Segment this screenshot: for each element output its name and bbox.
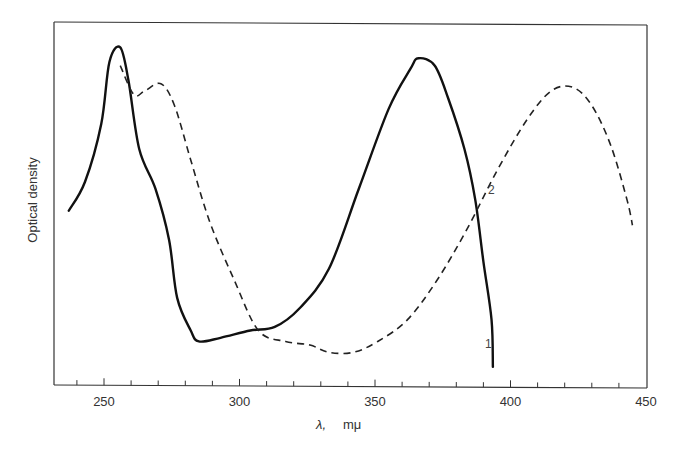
curve-2-dashed [120,66,632,354]
x-tick-label: 400 [500,394,522,409]
x-axis-ticks [77,378,619,388]
x-axis-title-unit: mμ [343,417,361,432]
optical-density-chart: 250300350400450 1 2 Optical density λ, m… [0,0,678,452]
plot-frame [54,22,647,388]
curve-1-label: 1 [485,337,492,351]
x-tick-label: 250 [93,394,115,409]
curve-2-label: 2 [488,183,495,197]
x-tick-label: 350 [364,394,386,409]
x-axis-tick-labels: 250300350400450 [93,394,657,409]
y-axis-title: Optical density [25,157,40,243]
x-tick-label: 450 [635,394,657,409]
curve-1-solid [69,47,493,367]
x-tick-label: 300 [229,394,251,409]
x-axis-title-symbol: λ, [315,417,326,432]
